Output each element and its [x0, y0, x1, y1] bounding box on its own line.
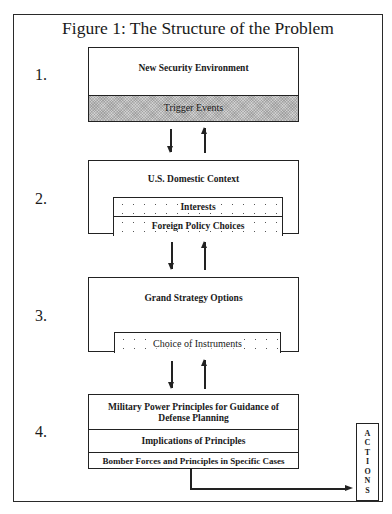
bomber-forces-label: Bomber Forces and Principles in Specific… [89, 456, 298, 466]
actions-letter: A [365, 429, 371, 439]
military-power-principles-box: Military Power Principles for Guidance o… [88, 394, 299, 469]
implications-label: Implications of Principles [89, 436, 298, 446]
interests-row: Interests [114, 198, 282, 216]
new-security-environment-box: New Security Environment Trigger Events [88, 47, 299, 122]
choice-of-instruments-box: Choice of Instruments [114, 332, 281, 353]
foreign-policy-choices-label: Foreign Policy Choices [150, 221, 247, 231]
arrow-down-1-2 [170, 129, 172, 152]
arrow-down-3-4 [171, 361, 173, 388]
actions-letter: N [365, 476, 371, 486]
grand-strategy-options-box: Grand Strategy Options Choice of Instrum… [88, 277, 299, 352]
actions-letter: C [365, 438, 371, 448]
new-security-environment-label: New Security Environment [89, 63, 298, 73]
actions-letter: O [364, 467, 370, 477]
interests-label: Interests [178, 202, 217, 212]
choice-of-instruments-label: Choice of Instruments [151, 338, 244, 349]
trigger-events-band: Trigger Events [89, 95, 298, 121]
connector-horizontal [190, 488, 346, 490]
military-power-principles-label: Military Power Principles for Guidance o… [89, 402, 298, 424]
arrow-right-icon [345, 485, 353, 491]
arrow-up-3-2 [204, 242, 206, 270]
grand-strategy-options-label: Grand Strategy Options [89, 293, 298, 303]
actions-letter: I [366, 457, 369, 467]
arrow-up-2-1 [204, 128, 206, 153]
actions-box: A C T I O N S [356, 423, 379, 501]
us-domestic-context-box: U.S. Domestic Context Interests Foreign … [88, 160, 299, 234]
trigger-events-label: Trigger Events [89, 102, 298, 113]
actions-letter: T [365, 448, 370, 458]
connector-vertical [190, 468, 192, 489]
level-2-number: 2. [35, 190, 47, 208]
actions-letter: S [365, 486, 369, 496]
us-domestic-context-label: U.S. Domestic Context [89, 174, 298, 184]
arrow-down-2-3 [171, 242, 173, 269]
foreign-policy-choices-row: Foreign Policy Choices [114, 217, 282, 235]
level-3-number: 3. [35, 307, 47, 325]
arrow-up-4-3 [204, 360, 206, 389]
interests-choices-box: Interests Foreign Policy Choices [113, 197, 283, 236]
figure-title: Figure 1: The Structure of the Problem [13, 18, 383, 38]
level-1-number: 1. [35, 66, 47, 84]
level-4-number: 4. [35, 423, 47, 441]
